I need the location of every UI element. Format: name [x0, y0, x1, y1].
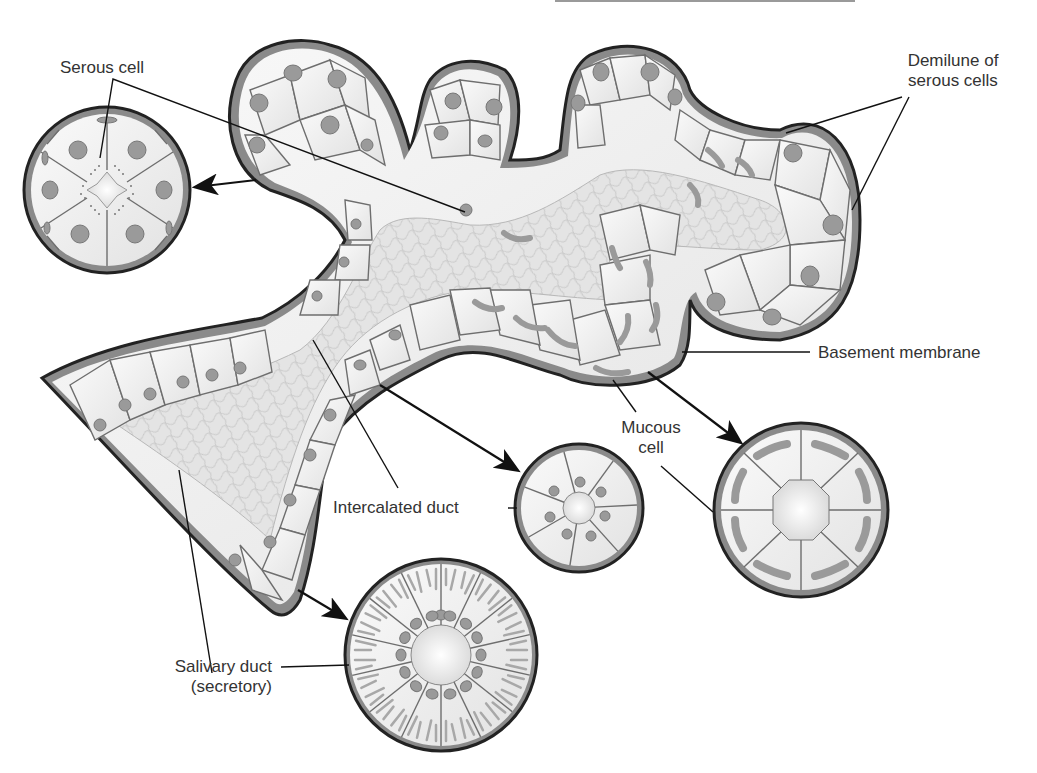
cross-section-serous-acinus — [24, 107, 190, 273]
label-salivary-duct: Salivary duct (secretory) — [130, 657, 272, 697]
label-mucous-cell: Mucous cell — [615, 418, 687, 458]
salivary-gland-diagram: Serous cell Demilune of serous cells Bas… — [0, 0, 1037, 773]
label-mucous-line1: Mucous — [615, 418, 687, 438]
cross-section-salivary-duct — [345, 559, 537, 751]
label-salivary-duct-line1: Salivary duct — [130, 657, 272, 677]
label-demilune-line2: serous cells — [893, 71, 1013, 91]
label-basement-membrane: Basement membrane — [818, 343, 981, 363]
label-mucous-line2: cell — [615, 438, 687, 458]
cross-section-intercalated-duct — [515, 444, 643, 572]
label-demilune: Demilune of serous cells — [893, 51, 1013, 91]
cross-section-mucous-acinus — [714, 423, 888, 597]
header-rule — [555, 0, 855, 2]
label-salivary-duct-line2: (secretory) — [130, 677, 272, 697]
label-demilune-line1: Demilune of — [893, 51, 1013, 71]
label-serous-cell: Serous cell — [60, 58, 144, 78]
label-intercalated-duct: Intercalated duct — [333, 498, 459, 518]
